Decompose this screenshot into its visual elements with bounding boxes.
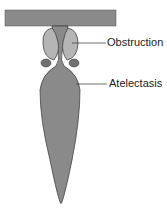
- nodule-right: [69, 59, 79, 67]
- atelectasis-label: Atelectasis: [109, 77, 162, 89]
- airway-diagram: [0, 0, 167, 212]
- nodule-left: [41, 59, 51, 67]
- obstruction-label: Obstruction: [107, 36, 163, 48]
- main-airway-bar: [5, 10, 116, 26]
